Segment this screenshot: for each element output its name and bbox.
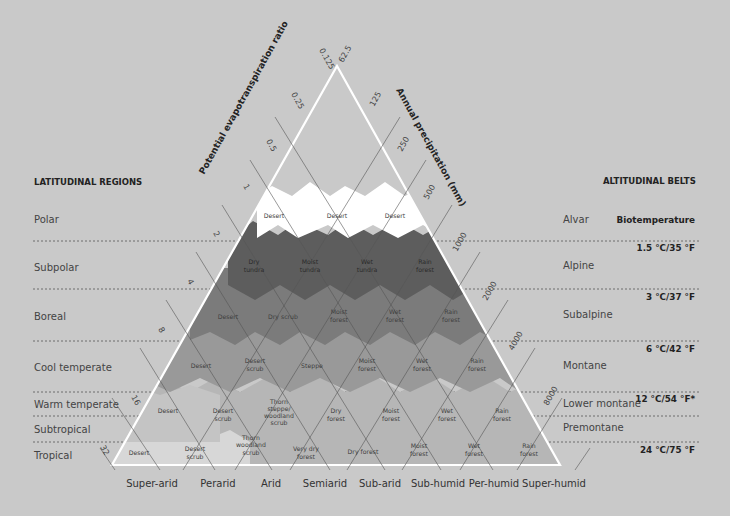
svg-text:Desert: Desert xyxy=(129,449,150,456)
svg-text:Desert: Desert xyxy=(264,212,285,219)
svg-text:scrub: scrub xyxy=(214,415,231,422)
svg-text:Cool temperate: Cool temperate xyxy=(34,362,112,373)
svg-text:Desert: Desert xyxy=(185,445,206,452)
left-axis-label: Potential evapotranspiration ratio xyxy=(197,19,290,176)
biotemperature-values: 1.5 °C/35 °F 3 °C/37 °F 6 °C/42 °F 12 °C… xyxy=(635,243,695,455)
svg-text:scrub: scrub xyxy=(246,365,263,372)
svg-text:32: 32 xyxy=(98,444,111,457)
svg-text:Super-humid: Super-humid xyxy=(522,478,586,489)
svg-text:Moist: Moist xyxy=(331,308,348,315)
svg-text:0.125: 0.125 xyxy=(317,47,336,71)
svg-text:Moist: Moist xyxy=(359,357,376,364)
svg-text:forest: forest xyxy=(330,316,348,323)
svg-text:Wet: Wet xyxy=(416,357,429,364)
svg-text:Moist: Moist xyxy=(383,407,400,414)
svg-text:Wet: Wet xyxy=(361,258,374,265)
svg-text:Super-arid: Super-arid xyxy=(126,478,178,489)
svg-text:forest: forest xyxy=(416,266,434,273)
altitudinal-belts-list: Alvar Alpine Subalpine Montane Lower mon… xyxy=(563,214,641,433)
svg-text:Dry scrub: Dry scrub xyxy=(268,313,298,321)
svg-text:forest: forest xyxy=(386,316,404,323)
svg-text:62.5: 62.5 xyxy=(337,44,354,64)
svg-text:scrub: scrub xyxy=(270,419,287,426)
altitudinal-belts-heading: ALTITUDINAL BELTS xyxy=(603,176,696,186)
svg-text:250: 250 xyxy=(396,135,411,153)
svg-text:24 °C/75 °F: 24 °C/75 °F xyxy=(640,445,695,455)
svg-text:Arid: Arid xyxy=(261,478,281,489)
svg-text:1: 1 xyxy=(241,183,251,192)
svg-text:forest: forest xyxy=(442,316,460,323)
svg-text:Desert: Desert xyxy=(327,212,348,219)
svg-text:125: 125 xyxy=(368,90,383,108)
svg-text:Boreal: Boreal xyxy=(34,311,66,322)
svg-text:4: 4 xyxy=(185,278,195,287)
svg-text:3 °C/37 °F: 3 °C/37 °F xyxy=(646,292,695,302)
svg-text:Rain: Rain xyxy=(495,407,509,414)
humidity-provinces: Super-arid Perarid Arid Semiarid Sub-ari… xyxy=(126,478,586,489)
svg-text:Very dry: Very dry xyxy=(293,445,319,453)
svg-text:forest: forest xyxy=(382,415,400,422)
svg-text:Subtropical: Subtropical xyxy=(34,424,91,435)
svg-text:2000: 2000 xyxy=(481,280,499,302)
svg-text:Tropical: Tropical xyxy=(33,450,72,461)
svg-text:Moist: Moist xyxy=(302,258,319,265)
svg-text:tundra: tundra xyxy=(244,266,265,273)
svg-text:Premontane: Premontane xyxy=(563,422,624,433)
svg-text:Alpine: Alpine xyxy=(563,260,594,271)
svg-text:1.5 °C/35 °F: 1.5 °C/35 °F xyxy=(637,243,695,253)
svg-text:forest: forest xyxy=(413,365,431,372)
svg-text:Moist: Moist xyxy=(411,442,428,449)
svg-text:scrub: scrub xyxy=(186,453,203,460)
svg-text:2: 2 xyxy=(211,230,221,239)
latitudinal-regions-list: Polar Subpolar Boreal Cool temperate War… xyxy=(33,214,119,461)
svg-text:Desert: Desert xyxy=(245,357,266,364)
svg-text:forest: forest xyxy=(327,415,345,422)
svg-text:Steppe: Steppe xyxy=(301,362,323,370)
svg-text:forest: forest xyxy=(468,365,486,372)
svg-text:forest: forest xyxy=(465,450,483,457)
svg-text:Dry: Dry xyxy=(249,258,260,266)
svg-text:0.25: 0.25 xyxy=(289,91,306,111)
svg-text:forest: forest xyxy=(358,365,376,372)
svg-text:Semiarid: Semiarid xyxy=(303,478,347,489)
svg-text:tundra: tundra xyxy=(300,266,321,273)
svg-text:Wet: Wet xyxy=(389,308,402,315)
svg-text:forest: forest xyxy=(297,453,315,460)
svg-text:Subpolar: Subpolar xyxy=(34,262,79,273)
svg-text:1000: 1000 xyxy=(451,231,469,253)
svg-text:6 °C/42 °F: 6 °C/42 °F xyxy=(646,344,695,354)
biotemperature-heading: Biotemperature xyxy=(617,215,695,225)
svg-text:Montane: Montane xyxy=(563,360,607,371)
svg-text:16: 16 xyxy=(129,394,142,407)
svg-text:Dry: Dry xyxy=(331,407,342,415)
svg-text:0.5: 0.5 xyxy=(264,138,278,154)
svg-text:Desert: Desert xyxy=(158,407,179,414)
svg-text:Rain: Rain xyxy=(444,308,458,315)
svg-text:Per-humid: Per-humid xyxy=(469,478,519,489)
svg-text:woodland: woodland xyxy=(236,441,266,448)
svg-text:Desert: Desert xyxy=(213,407,234,414)
svg-text:scrub: scrub xyxy=(242,449,259,456)
svg-text:Warm temperate: Warm temperate xyxy=(34,399,119,410)
svg-text:tundra: tundra xyxy=(357,266,378,273)
svg-text:Subalpine: Subalpine xyxy=(563,309,613,320)
svg-text:Rain: Rain xyxy=(418,258,432,265)
svg-text:Alvar: Alvar xyxy=(563,214,590,225)
latitudinal-regions-heading: LATITUDINAL REGIONS xyxy=(34,177,142,187)
svg-text:forest: forest xyxy=(438,415,456,422)
svg-text:Lower montane: Lower montane xyxy=(563,398,641,409)
svg-text:Thorn: Thorn xyxy=(241,434,260,441)
svg-text:Wet: Wet xyxy=(441,407,454,414)
svg-text:8: 8 xyxy=(156,326,166,335)
svg-text:forest: forest xyxy=(410,450,428,457)
svg-text:12 °C/54 °F*: 12 °C/54 °F* xyxy=(635,394,695,404)
svg-text:Sub-arid: Sub-arid xyxy=(359,478,401,489)
svg-text:forest: forest xyxy=(493,415,511,422)
svg-text:8000: 8000 xyxy=(542,385,560,407)
svg-text:Thorn: Thorn xyxy=(269,398,288,405)
svg-text:Sub-humid: Sub-humid xyxy=(411,478,465,489)
svg-text:500: 500 xyxy=(422,183,437,201)
svg-text:woodland: woodland xyxy=(264,412,294,419)
svg-text:Rain: Rain xyxy=(522,442,536,449)
svg-text:forest: forest xyxy=(520,450,538,457)
